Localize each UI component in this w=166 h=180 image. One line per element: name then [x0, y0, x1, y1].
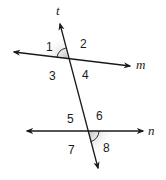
angle-label-2: 2 [80, 37, 87, 51]
angle-label-7: 7 [68, 143, 75, 157]
angle-label-8: 8 [103, 141, 110, 155]
transversal-t [60, 24, 98, 168]
label-t: t [56, 3, 60, 18]
line-m [14, 52, 130, 66]
angle-label-5: 5 [67, 112, 74, 126]
label-m: m [136, 57, 145, 72]
label-n: n [148, 123, 155, 138]
angle-label-4: 4 [82, 68, 89, 82]
transversal-diagram: t m n 1 2 3 4 5 6 7 8 [0, 0, 166, 180]
angle-label-6: 6 [96, 109, 103, 123]
angle-label-3: 3 [49, 69, 56, 83]
angle-label-1: 1 [46, 40, 53, 54]
